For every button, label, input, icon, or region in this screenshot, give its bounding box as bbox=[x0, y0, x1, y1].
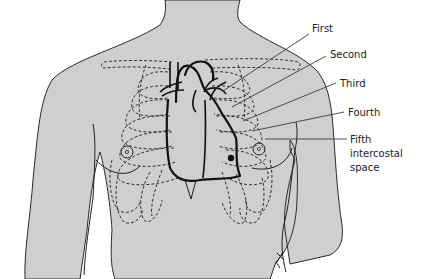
torso-silhouette bbox=[25, 0, 343, 279]
label-fifth-line1: Fifth bbox=[350, 134, 371, 145]
label-fifth-line2: intercostal bbox=[350, 148, 403, 159]
label-second: Second bbox=[330, 49, 367, 60]
label-fourth: Fourth bbox=[348, 107, 380, 118]
label-fifth-line3: space bbox=[350, 162, 379, 173]
label-third: Third bbox=[339, 78, 366, 89]
apex-point[interactable] bbox=[228, 155, 234, 161]
chest-diagram: First Second Third Fourth Fifth intercos… bbox=[0, 0, 422, 279]
label-first: First bbox=[312, 23, 333, 34]
